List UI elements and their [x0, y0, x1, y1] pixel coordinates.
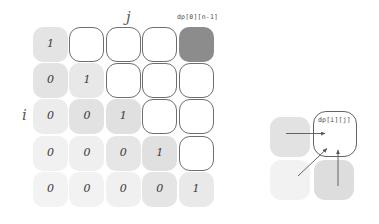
dp-cell-value: 0	[120, 146, 127, 159]
dp-cell-3-1: 0	[69, 136, 104, 171]
dp-cell-1-3	[142, 63, 177, 98]
dp-cell-2-3	[142, 99, 177, 134]
dp-cell-3-4	[179, 136, 214, 171]
dp-cell-2-2: 1	[106, 99, 141, 134]
dp-cell-1-4	[179, 63, 214, 98]
dp-cell-4-2: 0	[106, 172, 141, 207]
dp-cell-0-4	[179, 27, 214, 62]
dp-cell-2-0: 0	[33, 99, 68, 134]
dp-cell-value: 1	[156, 146, 163, 159]
dp-cell-value: 0	[83, 109, 90, 122]
dp-cell-4-1: 0	[69, 172, 104, 207]
dp-cell-1-0: 0	[33, 63, 68, 98]
dp-cell-value: 0	[83, 146, 90, 159]
dp-cell-3-3: 1	[142, 136, 177, 171]
dp-0-n-minus-1-annotation: dp[0][n-1]	[177, 13, 218, 21]
dp-cell-value: 0	[120, 182, 127, 195]
row-axis-label: i	[22, 108, 27, 123]
dp-cell-0-2	[106, 27, 141, 62]
dp-table-grid: 101001000100001	[33, 27, 216, 209]
dp-cell-2-4	[179, 99, 214, 134]
dp-cell-value: 0	[47, 146, 54, 159]
dp-cell-4-0: 0	[33, 172, 68, 207]
dp-cell-4-4: 1	[179, 172, 214, 207]
dp-cell-value: 0	[47, 109, 54, 122]
dp-cell-value: 1	[193, 182, 200, 195]
dp-cell-4-3: 0	[142, 172, 177, 207]
dp-cell-1-1: 1	[69, 63, 104, 98]
column-axis-label: j	[126, 10, 131, 25]
dp-cell-3-0: 0	[33, 136, 68, 171]
dp-cell-value: 0	[47, 73, 54, 86]
dp-cell-3-2: 0	[106, 136, 141, 171]
dp-cell-value: 1	[83, 73, 90, 86]
dp-cell-value: 0	[47, 182, 54, 195]
dp-cell-0-0: 1	[33, 27, 68, 62]
dp-cell-1-2	[106, 63, 141, 98]
dp-cell-value: 1	[120, 109, 127, 122]
diagram-canvas: j i dp[0][n-1] 101001000100001 dp[i][j]	[0, 0, 379, 224]
dp-cell-value: 0	[156, 182, 163, 195]
dp-cell-value: 0	[83, 182, 90, 195]
dp-cell-value: 1	[47, 37, 54, 50]
dp-cell-0-1	[69, 27, 104, 62]
dp-cell-2-1: 0	[69, 99, 104, 134]
arrow-from-diagonal-icon	[298, 149, 327, 177]
dp-cell-0-3	[142, 27, 177, 62]
dp-i-j-annotation: dp[i][j]	[318, 116, 351, 124]
